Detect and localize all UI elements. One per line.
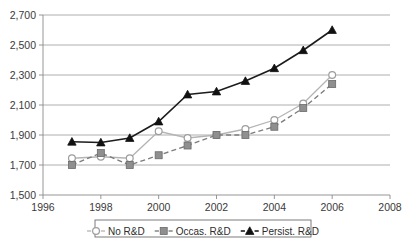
data-point-occas-r-d-2000 [155, 152, 162, 159]
series-markers [68, 26, 337, 169]
chart-container: 1,5001,7001,9002,1002,3002,5002,700 1996… [0, 0, 404, 249]
y-axis-label-2500: 2,500 [10, 39, 36, 51]
legend-label-no-r-d: No R&D [108, 226, 145, 237]
data-point-persist-r-d-2004 [270, 64, 278, 72]
x-axis-tick-labels: 1996199820002002200420062008 [31, 201, 402, 213]
x-axis-label-2000: 2000 [147, 201, 171, 213]
x-axis-label-2006: 2006 [320, 201, 344, 213]
line-chart: 1,5001,7001,9002,1002,3002,5002,700 1996… [0, 0, 404, 249]
y-axis [39, 15, 43, 195]
y-axis-label-2700: 2,700 [10, 9, 36, 21]
data-point-no-r-d-2001 [184, 135, 191, 142]
data-point-occas-r-d-1997 [68, 162, 75, 169]
legend-label-persist-r-d: Persist. R&D [262, 226, 319, 237]
data-point-occas-r-d-2005 [300, 105, 307, 112]
y-axis-tick-labels: 1,5001,7001,9002,1002,3002,5002,700 [10, 9, 36, 201]
y-axis-label-1700: 1,700 [10, 159, 36, 171]
series-line-no-r-d [72, 75, 332, 158]
y-axis-label-2300: 2,300 [10, 69, 36, 81]
x-axis-label-2004: 2004 [263, 201, 287, 213]
data-point-no-r-d-1997 [69, 155, 76, 162]
data-point-occas-r-d-1998 [97, 150, 104, 157]
x-axis-label-2002: 2002 [205, 201, 229, 213]
x-axis-label-2008: 2008 [378, 201, 402, 213]
y-axis-label-2100: 2,100 [10, 99, 36, 111]
x-axis-label-1996: 1996 [31, 201, 55, 213]
x-axis-label-1998: 1998 [89, 201, 113, 213]
data-point-persist-r-d-2006 [328, 26, 336, 34]
data-point-occas-r-d-1999 [126, 162, 133, 169]
data-point-occas-r-d-2006 [329, 81, 336, 88]
data-point-no-r-d-1999 [126, 155, 133, 162]
data-point-occas-r-d-2003 [242, 132, 249, 139]
series-lines [72, 30, 332, 165]
data-point-persist-r-d-2005 [299, 46, 307, 54]
series-line-occas-r-d [72, 84, 332, 165]
data-point-occas-r-d-2004 [271, 123, 278, 130]
y-axis-label-1500: 1,500 [10, 189, 36, 201]
legend-item-no-r-d[interactable]: No R&D [87, 226, 145, 237]
legend-label-occas-r-d: Occas. R&D [176, 226, 231, 237]
data-point-no-r-d-2000 [155, 128, 162, 135]
y-axis-label-1900: 1,900 [10, 129, 36, 141]
legend-marker-no-r-d [93, 228, 100, 235]
data-point-occas-r-d-2002 [213, 132, 220, 139]
data-point-persist-r-d-2003 [241, 77, 249, 85]
data-point-no-r-d-2006 [329, 72, 336, 79]
legend-marker-occas-r-d [160, 228, 167, 235]
series-line-persist-r-d [72, 30, 332, 143]
chart-legend: No R&DOccas. R&DPersist. R&D [87, 220, 319, 237]
x-axis [43, 195, 390, 199]
data-point-occas-r-d-2001 [184, 142, 191, 149]
data-point-no-r-d-2004 [271, 117, 278, 124]
